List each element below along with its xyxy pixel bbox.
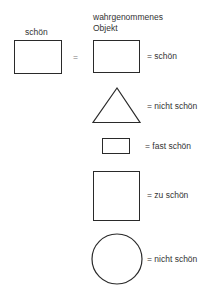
perceived-triangle	[92, 87, 142, 124]
reference-rectangle	[14, 40, 62, 74]
perceived-circle	[90, 232, 144, 286]
result-label-4: = zu schön	[147, 190, 188, 200]
equals-sign: =	[73, 52, 78, 62]
result-label-3: = fast schön	[145, 141, 191, 151]
perceived-rectangle	[93, 40, 140, 73]
perceived-square	[93, 171, 140, 221]
perceived-object-header-line1: wahrgenommenes	[93, 12, 163, 22]
result-label-2: = nicht schön	[147, 101, 197, 111]
perceived-object-header-line2: Objekt	[93, 23, 118, 33]
reference-label: schön	[25, 27, 48, 37]
result-label-1: = schön	[147, 51, 177, 61]
result-label-5: = nicht schön	[147, 254, 197, 264]
perceived-small-rectangle	[102, 138, 130, 154]
